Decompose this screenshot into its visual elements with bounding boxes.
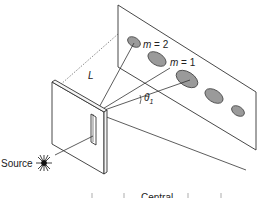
angle-arc [140,95,141,104]
central-label: Central [141,192,173,198]
order-2-label: m = 2 [143,39,169,50]
light-source-icon [36,155,52,171]
distance-label: L [88,70,94,81]
order-1-label: m = 1 [170,57,196,68]
slit-plate [52,80,107,174]
diffraction-diagram: Source L m = 2 m = 1 θ1 Central [0,0,260,198]
angle-label: θ1 [144,92,153,105]
source-label: Source [1,158,33,169]
slit [91,114,96,145]
